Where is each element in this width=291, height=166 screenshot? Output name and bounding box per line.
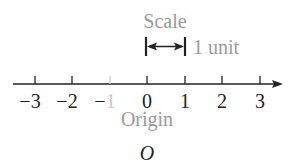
axis <box>13 80 283 88</box>
tick-label: 2 <box>217 90 227 112</box>
tick-marks <box>35 76 260 84</box>
number-line-svg: Scale 1 unit −3−2−10123 Origin O <box>0 0 291 166</box>
tick-label: 1 <box>180 90 190 112</box>
tick-label: −2 <box>56 90 77 112</box>
scale-label: Scale <box>143 10 186 32</box>
tick-label: −3 <box>19 90 40 112</box>
tick-label: 3 <box>255 90 265 112</box>
unit-label: 1 unit <box>193 36 240 58</box>
origin-label: Origin <box>121 108 173 131</box>
tick-label: −1 <box>94 90 115 112</box>
scale-bar <box>146 37 185 56</box>
origin-symbol: O <box>140 142 154 164</box>
number-line-diagram: Scale 1 unit −3−2−10123 Origin O <box>0 0 291 166</box>
